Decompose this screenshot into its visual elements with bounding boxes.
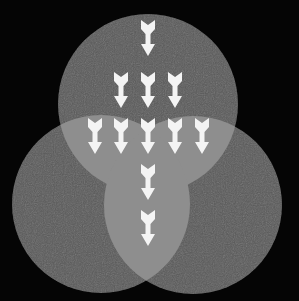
circles-group — [12, 14, 282, 294]
venn-diagram — [0, 0, 299, 301]
diagram-canvas — [0, 0, 299, 301]
